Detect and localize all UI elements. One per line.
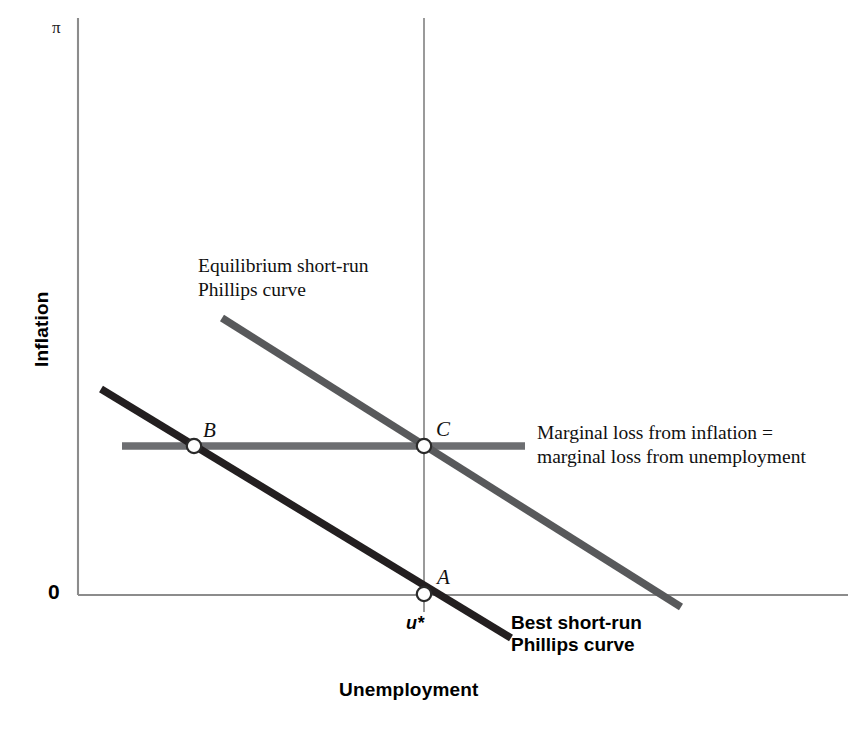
origin-label: 0 — [48, 580, 60, 605]
point-label-c: C — [436, 417, 450, 442]
y-axis-title: Inflation — [31, 291, 53, 367]
best-annotation-line2: Phillips curve — [511, 634, 635, 656]
equilibrium-annotation-line2: Phillips curve — [198, 278, 306, 301]
marginal-annotation-line2: marginal loss from unemployment — [537, 445, 806, 468]
phillips-curve-figure: π 0 Inflation Unemployment B C A u* Equi… — [0, 0, 867, 731]
y-axis-max-symbol: π — [52, 18, 61, 38]
equilibrium-annotation-line1: Equilibrium short-run — [198, 254, 369, 277]
point-marker-a — [417, 587, 431, 601]
point-marker-b — [187, 439, 201, 453]
best-annotation-line1: Best short-run — [511, 612, 642, 635]
chart-canvas — [0, 0, 867, 731]
point-marker-c — [417, 439, 431, 453]
x-axis-title: Unemployment — [339, 679, 479, 701]
ustar-label: u* — [406, 613, 424, 634]
marginal-annotation-line1: Marginal loss from inflation = — [537, 421, 773, 444]
point-label-a: A — [437, 565, 450, 590]
point-label-b: B — [203, 418, 216, 443]
